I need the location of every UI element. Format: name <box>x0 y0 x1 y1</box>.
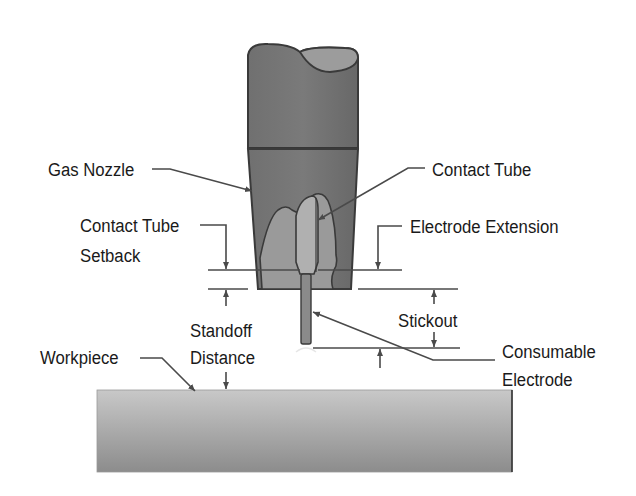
label-stickout: Stickout <box>398 310 457 331</box>
label-setback-line2: Setback <box>80 245 140 266</box>
setback-leader <box>200 225 226 269</box>
gas-nozzle-leader <box>152 169 252 191</box>
workpiece <box>97 390 512 472</box>
torch-body <box>248 44 358 149</box>
label-electrode-extension: Electrode Extension <box>410 216 559 237</box>
label-workpiece: Workpiece <box>40 347 119 368</box>
consumable-electrode <box>301 274 311 344</box>
contact-tube <box>296 196 318 274</box>
label-standoff-line2: Distance <box>190 347 255 368</box>
label-contact-tube: Contact Tube <box>432 159 531 180</box>
label-setback-line1: Contact Tube <box>80 215 179 236</box>
label-consumable-line2: Electrode <box>502 369 573 390</box>
workpiece-leader <box>140 358 195 391</box>
label-standoff-line1: Standoff <box>190 320 252 341</box>
extension-leader <box>378 226 402 269</box>
welding-torch-diagram: Gas Nozzle Contact Tube Contact Tube Set… <box>0 0 636 496</box>
label-gas-nozzle: Gas Nozzle <box>48 159 134 180</box>
label-consumable-line1: Consumable <box>502 341 596 362</box>
